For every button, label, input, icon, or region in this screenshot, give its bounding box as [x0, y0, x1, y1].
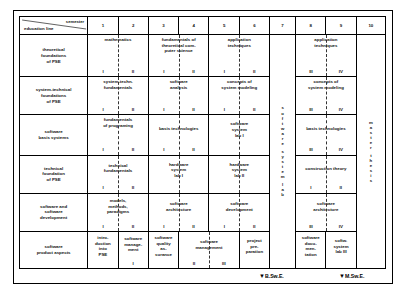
semester-header-4: 4 [179, 17, 209, 35]
course-cell-application-techniques-2: application techniques III IV [296, 35, 357, 77]
marker-label: B.Sw.E. [265, 273, 284, 279]
half-column-divider [179, 77, 180, 114]
row-label-software-product-aspects: software product aspects [20, 231, 88, 268]
course-part-number: II [239, 69, 269, 75]
column-7-software-system-lab: s o f t w a r e s y s t [270, 35, 296, 269]
course-cell-software-architecture-1: software architecture I II [148, 193, 209, 231]
course-cell-fundamentals-of-programing: fundamentals of programing I II [88, 115, 149, 155]
education-line-row-software-product-aspects: software product aspects intro- duction … [20, 231, 386, 268]
course-part-number: II [118, 147, 148, 153]
course-title-line: PSE [88, 252, 117, 258]
half-column-divider [179, 115, 180, 154]
half-column-divider [239, 156, 240, 193]
course-part-number: II [326, 185, 356, 191]
vertical-text-master-thesis: m a s t e r t h e s i s [357, 35, 385, 268]
course-part-number: I [88, 147, 118, 153]
course-part-number: I [88, 224, 118, 230]
semester-header-2: 2 [118, 17, 148, 35]
course-title-line: tation [296, 252, 325, 258]
course-part-number: II [179, 147, 209, 153]
course-cell-software-management-2: software management II III [179, 231, 240, 268]
row-label-software-and-software-development: software and software development [20, 193, 88, 231]
course-part-number: IV [326, 69, 356, 75]
course-title-line: surance [149, 252, 178, 258]
label-line: of PSE [20, 99, 87, 105]
course-cell-software-system-lab-1: software system lab I [209, 115, 270, 155]
marker-master: ▼M.Sw.E. [339, 273, 364, 279]
course-cell-system-modeling-2: concepts of system modeling III IV [296, 77, 357, 115]
course-part-number: IV [326, 224, 356, 230]
course-part-number: III [296, 147, 326, 153]
label-line: development [20, 215, 87, 221]
semester-header-5: 5 [209, 17, 239, 35]
course-part-number: IV [326, 107, 356, 113]
label-line: basis systems [20, 135, 87, 141]
vertical-text-software-system-lab: s o f t w a r e s y s t [270, 35, 295, 268]
course-cell-software-quality-assurance: software quality as- surance [148, 231, 178, 268]
course-part-number: I [209, 224, 239, 230]
education-line-label: education line [24, 26, 54, 32]
course-part-number: II [179, 69, 209, 75]
label-line: of PSE [20, 177, 87, 183]
v-letter: m [281, 174, 285, 179]
course-cell-application-techniques-1: application techniques I II [209, 35, 270, 77]
course-cell-theoretical-cs: fundamentals of theoretical com- puter s… [148, 35, 209, 77]
course-part-number: I [88, 185, 118, 191]
label-line: product aspects [20, 250, 87, 256]
diagram-page: semester education line 1 2 3 4 5 6 7 8 … [0, 0, 405, 295]
course-title-line: paration [240, 249, 269, 255]
row-label-system-technical-foundations: system-technical foundations of PSE [20, 77, 88, 115]
course-cell-hardware-system-lab-2: hardware system lab II [209, 155, 270, 193]
label-line: of PSE [20, 59, 87, 65]
semester-header-1: 1 [88, 17, 118, 35]
course-cell-software-analysis: software analysis I II [148, 77, 209, 115]
course-part-number: IV [326, 147, 356, 153]
matrix-table: semester education line 1 2 3 4 5 6 7 8 … [19, 16, 386, 269]
corner-header: semester education line [20, 17, 88, 35]
course-part-number: I [209, 69, 239, 75]
education-line-row-software-basis-systems: software basis systems fundamentals of p… [20, 115, 386, 155]
course-part-number: II [239, 107, 269, 113]
course-cell-softw-system-lab-3: softw. system lab III [326, 231, 356, 268]
marker-label: M.Sw.E. [345, 273, 364, 279]
half-column-divider [179, 35, 180, 76]
course-part-number: I [149, 147, 179, 153]
course-cell-technical-fundamentals: technical fundamentals I II [88, 155, 149, 193]
half-column-divider [239, 115, 240, 154]
semester-header-7: 7 [270, 17, 296, 35]
half-column-divider [239, 77, 240, 114]
course-part-number: III [296, 224, 326, 230]
half-column-divider [326, 194, 327, 231]
half-column-divider [326, 77, 327, 114]
half-column-divider [209, 232, 210, 268]
course-part-number: II [118, 69, 148, 75]
curriculum-matrix: semester education line 1 2 3 4 5 6 7 8 … [19, 16, 386, 269]
v-letter: e [281, 141, 283, 146]
course-part-number: I [88, 107, 118, 113]
course-part-number: III [209, 261, 239, 267]
course-part-number: I [149, 69, 179, 75]
diagram-frame: semester education line 1 2 3 4 5 6 7 8 … [13, 10, 393, 284]
half-column-divider [118, 77, 119, 114]
column-10-master-thesis: m a s t e r t h e s i s [356, 35, 385, 269]
course-cell-software-development: software development I II [209, 193, 270, 231]
course-part-number: II [118, 107, 148, 113]
half-column-divider [118, 156, 119, 193]
v-letter: r [370, 145, 372, 150]
course-cell-system-techn-fundamentals: system-techn. fundamentals I II [88, 77, 149, 115]
course-part-number: I [88, 69, 118, 75]
course-title-line: lab III [326, 249, 355, 255]
course-part-number: III [296, 107, 326, 113]
course-cell-models-methods-paradigms: models, methods, paradigms I II [88, 193, 149, 231]
course-part-number: II [239, 224, 269, 230]
row-label-theoretical-foundations: theoretical foundations of PSE [20, 35, 88, 77]
course-part-number: III [296, 69, 326, 75]
header-row: semester education line 1 2 3 4 5 6 7 8 … [20, 17, 386, 35]
half-column-divider [118, 115, 119, 154]
semester-header-8: 8 [296, 17, 326, 35]
v-letter: s [370, 178, 372, 183]
course-part-number: I [149, 107, 179, 113]
course-part-number: II [179, 107, 209, 113]
v-letter: b [281, 192, 284, 197]
half-column-divider [118, 194, 119, 231]
